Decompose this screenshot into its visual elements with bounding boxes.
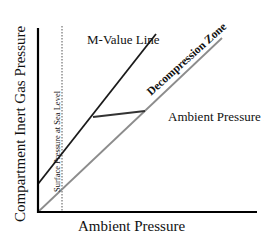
x-axis-label: Ambient Pressure <box>78 218 185 234</box>
m-value-label: M-Value Line <box>87 32 160 47</box>
gradient-segment <box>93 111 145 117</box>
surface-pressure-label: Surface Pressure at Sea Level <box>52 90 62 192</box>
decompression-diagram: M-Value Line Ambient Pressure Line Decom… <box>0 0 264 236</box>
ambient-line-label: Ambient Pressure Line <box>168 109 264 124</box>
ambient-pressure-line <box>38 38 222 212</box>
y-axis-label: Compartment Inert Gas Pressure <box>12 25 28 222</box>
